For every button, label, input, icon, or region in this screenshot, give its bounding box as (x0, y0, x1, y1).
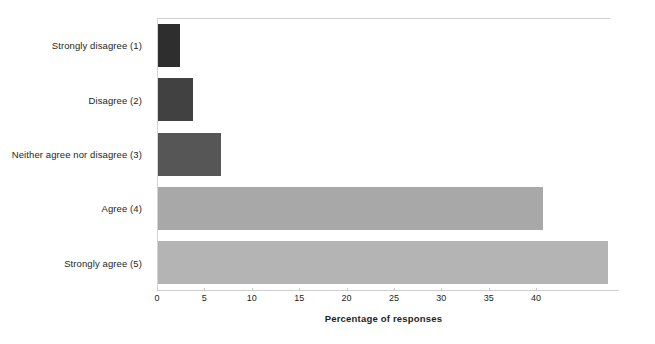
tick-mark (157, 288, 158, 291)
tick-label: 20 (342, 293, 352, 303)
bar-chart: Strongly disagree (1)Disagree (2)Neither… (0, 0, 655, 344)
tick-mark (204, 288, 205, 291)
bar (158, 133, 221, 176)
bar (158, 187, 543, 230)
x-axis-title: Percentage of responses (157, 313, 610, 324)
tick-mark (441, 288, 442, 291)
bar (158, 241, 608, 284)
tick-mark (299, 288, 300, 291)
tick-mark (347, 288, 348, 291)
category-label: Agree (4) (0, 203, 142, 214)
tick-mark (489, 288, 490, 291)
top-gridline (157, 18, 610, 19)
category-axis-labels: Strongly disagree (1)Disagree (2)Neither… (0, 18, 150, 290)
tick-mark (394, 288, 395, 291)
bar (158, 78, 193, 121)
tick-label: 10 (247, 293, 257, 303)
category-label: Strongly disagree (1) (0, 40, 142, 51)
tick-label: 40 (531, 293, 541, 303)
category-label: Neither agree nor disagree (3) (0, 149, 142, 160)
tick-label: 25 (389, 293, 399, 303)
plot-area (157, 18, 610, 290)
bar (158, 24, 180, 67)
tick-mark (536, 288, 537, 291)
tick-label: 30 (436, 293, 446, 303)
tick-label: 0 (154, 293, 159, 303)
tick-label: 5 (202, 293, 207, 303)
tick-label: 35 (484, 293, 494, 303)
tick-mark (252, 288, 253, 291)
x-axis-ticks: 0510152025303540 (157, 288, 619, 308)
tick-label: 15 (294, 293, 304, 303)
category-label: Strongly agree (5) (0, 257, 142, 268)
category-label: Disagree (2) (0, 94, 142, 105)
